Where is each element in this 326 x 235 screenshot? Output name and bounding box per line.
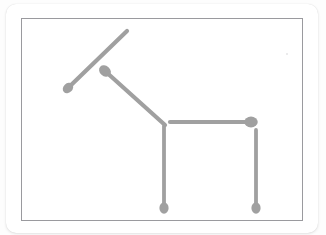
back-horizontal-head bbox=[244, 117, 258, 128]
back-leg-vertical-head bbox=[251, 202, 260, 214]
matches-group bbox=[61, 31, 261, 214]
ear-upper-diagonal-stick bbox=[68, 31, 127, 88]
neck-diagonal-stick bbox=[105, 71, 165, 125]
page-background bbox=[0, 0, 326, 235]
matchstick-figure bbox=[21, 18, 303, 221]
front-leg-vertical-head bbox=[159, 202, 168, 214]
front-leg-vertical[interactable] bbox=[159, 126, 168, 214]
back-horizontal[interactable] bbox=[170, 117, 258, 128]
ear-upper-diagonal[interactable] bbox=[61, 31, 127, 95]
neck-diagonal[interactable] bbox=[97, 63, 165, 125]
faint-speck bbox=[286, 53, 288, 55]
back-leg-vertical[interactable] bbox=[251, 130, 260, 214]
